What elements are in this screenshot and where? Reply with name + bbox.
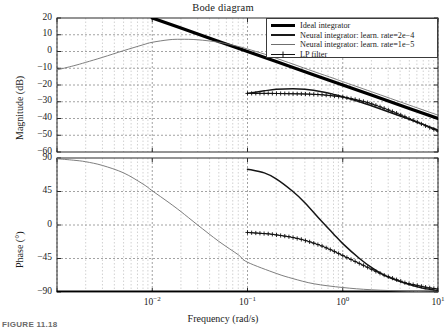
axis-tick-label: −40 xyxy=(20,112,52,122)
legend-item: Neural integrator: learn. rate=1e−5 xyxy=(270,40,434,49)
axis-tick-label: 100 xyxy=(327,295,359,307)
legend-label: Neural integrator: learn. rate=2e−4 xyxy=(300,31,414,40)
figure-caption: FIGURE 11.18 xyxy=(2,320,58,329)
legend-swatch-ideal-integrator xyxy=(270,21,296,30)
axis-tick-label: −45 xyxy=(20,252,52,262)
axis-tick-label: 90 xyxy=(20,152,52,162)
legend-item: Ideal integrator xyxy=(270,21,434,30)
legend-swatch-neural-2e-4 xyxy=(270,31,296,40)
axis-tick-label: 0 xyxy=(20,45,52,55)
axis-tick-label: 101 xyxy=(422,295,446,307)
axis-tick-label: −20 xyxy=(20,79,52,89)
axis-tick-label: 10−2 xyxy=(136,295,168,307)
bode-diagram-figure: Bode diagram Magnitude (dB) Phase (°) Fr… xyxy=(0,0,446,330)
axis-tick-label: 20 xyxy=(20,12,52,22)
axis-tick-label: −90 xyxy=(20,286,52,296)
axis-tick-label: 0 xyxy=(20,219,52,229)
axis-tick-label: 45 xyxy=(20,185,52,195)
axis-tick-label: −30 xyxy=(20,95,52,105)
legend-box: Ideal integrator Neural integrator: lear… xyxy=(266,18,438,58)
legend-label: Neural integrator: learn. rate=1e−5 xyxy=(300,40,414,49)
legend-label: LP filter xyxy=(300,50,327,59)
legend-item: Neural integrator: learn. rate=2e−4 xyxy=(270,31,434,40)
legend-swatch-lp-filter xyxy=(270,50,296,59)
axis-tick-label: 10 xyxy=(20,28,52,38)
legend-item: LP filter xyxy=(270,50,434,59)
axis-tick-label: −50 xyxy=(20,129,52,139)
axis-tick-label: 10−1 xyxy=(232,295,264,307)
legend-swatch-neural-1e-5 xyxy=(270,40,296,49)
legend-label: Ideal integrator xyxy=(300,21,350,30)
axis-tick-label: −10 xyxy=(20,62,52,72)
